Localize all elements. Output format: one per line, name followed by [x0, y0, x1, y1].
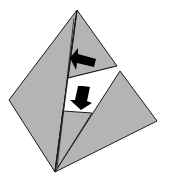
- pyramid-diagram: [0, 0, 170, 181]
- diagram-canvas: [0, 0, 170, 181]
